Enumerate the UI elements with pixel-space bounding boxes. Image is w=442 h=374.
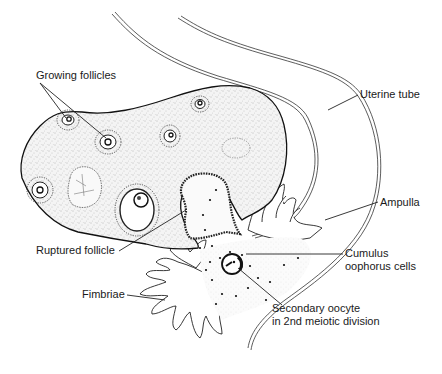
label-ampulla: Ampulla bbox=[380, 196, 420, 209]
label-growing-follicles: Growing follicles bbox=[36, 69, 116, 82]
ovary bbox=[21, 86, 287, 249]
label-secondary-oocyte: Secondary oocyte in 2nd meiotic division bbox=[272, 302, 380, 328]
label-uterine-tube: Uterine tube bbox=[360, 88, 420, 101]
corpus-albicans bbox=[68, 167, 101, 208]
label-cumulus-oophorus-cells: Cumulus oophorus cells bbox=[345, 247, 416, 273]
secondary-oocyte bbox=[222, 254, 242, 274]
label-fimbriae: Fimbriae bbox=[82, 288, 125, 301]
antral-follicle bbox=[115, 184, 159, 236]
label-ruptured-follicle: Ruptured follicle bbox=[36, 244, 115, 257]
